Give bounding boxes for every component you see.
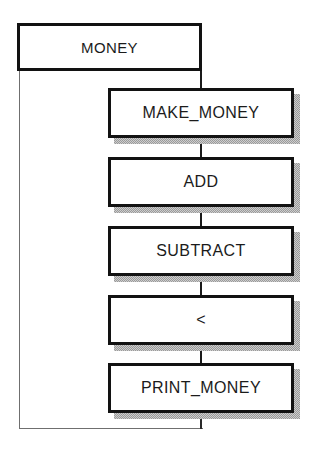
- node-add-label: ADD: [184, 174, 219, 190]
- node-subtract[interactable]: SUBTRACT: [108, 226, 294, 276]
- node-make-money[interactable]: MAKE_MONEY: [108, 88, 294, 138]
- node-subtract-label: SUBTRACT: [156, 243, 245, 259]
- loop-line-bottom-horizontal: [19, 428, 203, 429]
- node-less-than[interactable]: <: [108, 295, 294, 345]
- node-print-money[interactable]: PRINT_MONEY: [108, 363, 294, 413]
- node-print-money-label: PRINT_MONEY: [141, 380, 261, 396]
- node-money[interactable]: MONEY: [17, 23, 202, 71]
- node-add[interactable]: ADD: [108, 157, 294, 207]
- node-make-money-label: MAKE_MONEY: [143, 105, 260, 121]
- node-less-than-label: <: [196, 312, 206, 328]
- node-money-label: MONEY: [81, 40, 138, 55]
- loop-line-left-vertical: [19, 69, 20, 429]
- flowchart-canvas: MONEY MAKE_MONEY ADD SUBTRACT < PRINT_MO…: [0, 0, 318, 460]
